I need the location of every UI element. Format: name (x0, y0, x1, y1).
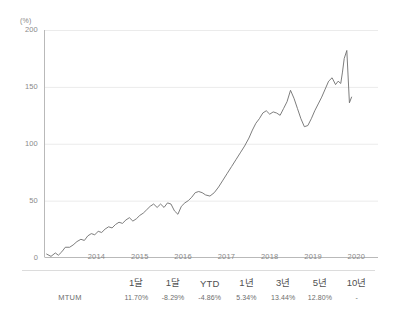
table-header-row: 1달1달YTD1년3년5년10년 (22, 271, 375, 289)
x-tick-2015: 2015 (120, 252, 160, 261)
x-tick-2017: 2017 (206, 252, 246, 261)
table-cell-value-1: -8.29% (155, 289, 192, 306)
table-period-header-6: 10년 (338, 271, 375, 289)
table-cell-value-6: - (338, 289, 375, 306)
y-tick-100: 100 (12, 139, 38, 148)
table-period-header-5: 5년 (302, 271, 339, 289)
performance-table: 1달1달YTD1년3년5년10년 MTUM11.70%-8.29%-4.86%5… (0, 270, 397, 319)
y-tick-50: 50 (12, 196, 38, 205)
performance-table-grid: 1달1달YTD1년3년5년10년 MTUM11.70%-8.29%-4.86%5… (22, 271, 375, 306)
table-cell-value-5: 12.80% (302, 289, 339, 306)
chart-canvas (0, 0, 397, 272)
x-tick-2020: 2020 (336, 252, 376, 261)
table-period-header-3: 1년 (228, 271, 265, 289)
table-cell-value-2: -4.86% (191, 289, 228, 306)
line-chart: (%) 050100150200 20142015201620172018201… (0, 0, 397, 272)
x-tick-2018: 2018 (250, 252, 290, 261)
table-corner-cell (22, 271, 118, 289)
table-body: MTUM11.70%-8.29%-4.86%5.34%13.44%12.80%- (22, 289, 375, 306)
y-tick-150: 150 (12, 82, 38, 91)
table-period-header-2: YTD (191, 271, 228, 289)
table-cell-value-3: 5.34% (228, 289, 265, 306)
y-tick-0: 0 (12, 253, 38, 262)
y-tick-200: 200 (12, 25, 38, 34)
table-row: MTUM11.70%-8.29%-4.86%5.34%13.44%12.80%- (22, 289, 375, 306)
x-tick-2016: 2016 (163, 252, 203, 261)
table-header: 1달1달YTD1년3년5년10년 (22, 271, 375, 289)
x-tick-2019: 2019 (293, 252, 333, 261)
table-period-header-4: 3년 (265, 271, 302, 289)
table-cell-value-0: 11.70% (118, 289, 155, 306)
table-cell-value-4: 13.44% (265, 289, 302, 306)
series-line-mtum (47, 50, 352, 256)
table-row-label: MTUM (22, 289, 118, 306)
x-tick-2014: 2014 (76, 252, 116, 261)
gridlines (45, 31, 379, 202)
performance-chart-widget: (%) 050100150200 20142015201620172018201… (0, 0, 397, 319)
table-period-header-0: 1달 (118, 271, 155, 289)
table-period-header-1: 1달 (155, 271, 192, 289)
